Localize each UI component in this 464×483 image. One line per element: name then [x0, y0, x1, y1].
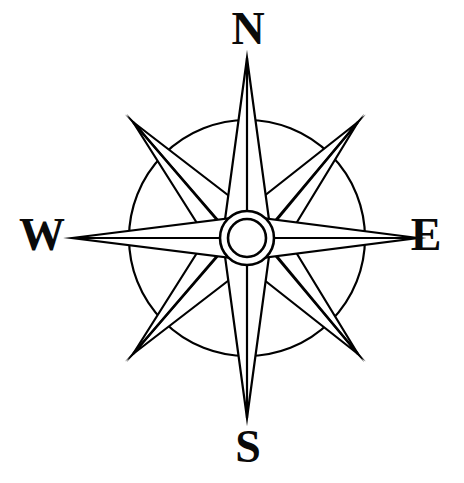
direction-label-east: E	[392, 212, 460, 258]
direction-label-west: W	[6, 212, 78, 258]
compass-rose-figure: N S W E	[0, 0, 464, 483]
direction-label-north: N	[206, 6, 290, 52]
compass-hub	[220, 211, 274, 265]
direction-label-south: S	[206, 424, 290, 470]
